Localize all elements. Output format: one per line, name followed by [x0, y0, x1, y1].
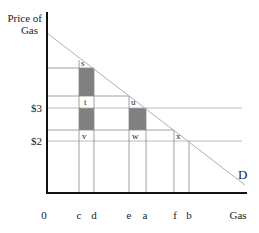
point-label-u: u: [131, 97, 136, 107]
x-axis-label: Gas: [229, 209, 246, 221]
quantity-label-a: a: [143, 209, 148, 221]
demand-label: D: [238, 167, 247, 182]
shaded-area-cd-upper: [79, 68, 94, 96]
point-label-s: s: [81, 58, 85, 68]
quantity-label-d: d: [91, 209, 97, 221]
y-axis-label-line2: Gas: [21, 24, 38, 36]
point-label-w: w: [132, 131, 139, 141]
shaded-area-cd-lower: [79, 108, 94, 130]
quantity-label-b: b: [186, 209, 192, 221]
shaded-area-ea: [129, 108, 146, 130]
point-label-x: x: [176, 131, 181, 141]
y-axis-label-line1: Price of: [7, 12, 42, 24]
quantity-label-f: f: [173, 209, 177, 221]
point-label-v: v: [82, 131, 87, 141]
point-label-t: t: [84, 97, 87, 107]
price-label-3: $3: [31, 102, 43, 114]
quantity-label-e: e: [127, 209, 132, 221]
quantity-label-c: c: [77, 209, 82, 221]
price-label-2: $2: [31, 135, 42, 147]
gas-demand-diagram: s t u v w x Price of Gas $3 $2 0 c d e a…: [0, 0, 259, 233]
origin-label: 0: [41, 209, 47, 221]
